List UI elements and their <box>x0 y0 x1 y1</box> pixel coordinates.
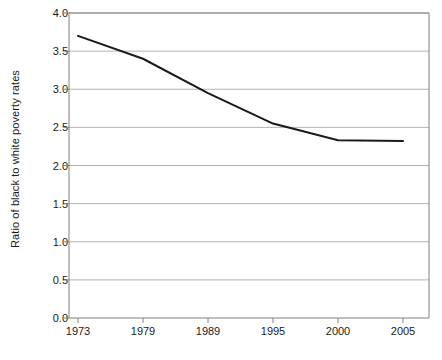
x-axis-tick-label: 1989 <box>196 325 220 337</box>
x-axis-tick-label: 1995 <box>261 325 285 337</box>
x-axis-tick-labels: 197319791989199520002005 <box>0 0 442 360</box>
x-axis-tick-label: 2000 <box>326 325 350 337</box>
x-axis-tick-label: 1973 <box>66 325 90 337</box>
poverty-ratio-line-chart: Ratio of black to white poverty rates 0.… <box>0 0 442 360</box>
x-axis-tick-label: 1979 <box>131 325 155 337</box>
x-axis-tick-label: 2005 <box>391 325 415 337</box>
